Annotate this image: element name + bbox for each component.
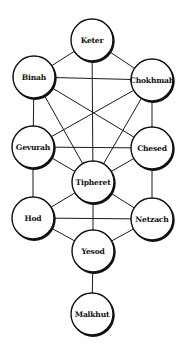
node-chokhmah: Chokhmah xyxy=(130,59,175,103)
node-tipheret: Tipheret xyxy=(72,161,116,205)
node-label: Binah xyxy=(22,73,47,82)
node-gevurah: Gevurah xyxy=(12,126,56,170)
nodes-layer: KeterBinahChokhmahGevurahChesedTipheretH… xyxy=(12,19,175,337)
node-label: Keter xyxy=(81,36,105,45)
node-yesod: Yesod xyxy=(72,230,116,274)
node-binah: Binah xyxy=(13,56,57,100)
node-label: Yesod xyxy=(80,247,105,256)
node-label: Chesed xyxy=(137,144,168,153)
node-label: Malkhut xyxy=(75,310,110,319)
node-chesed: Chesed xyxy=(131,127,175,171)
node-label: Gevurah xyxy=(16,143,51,152)
node-label: Tipheret xyxy=(76,178,112,187)
node-malkhut: Malkhut xyxy=(71,293,115,337)
node-netzach: Netzach xyxy=(131,198,175,242)
node-keter: Keter xyxy=(71,19,115,63)
node-label: Hod xyxy=(25,214,43,223)
node-hod: Hod xyxy=(12,197,56,241)
node-label: Chokhmah xyxy=(130,76,175,85)
node-label: Netzach xyxy=(135,215,169,224)
tree-of-life-diagram: KeterBinahChokhmahGevurahChesedTipheretH… xyxy=(0,0,187,357)
